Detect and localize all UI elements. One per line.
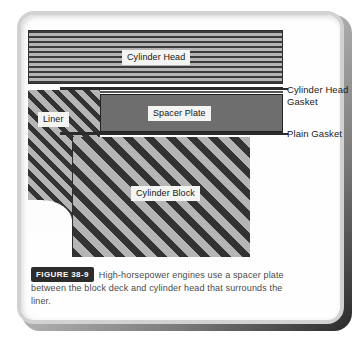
figure-caption: FIGURE 38-9High-horsepower engines use a… [31,267,299,307]
cylinder-block-label: Cylinder Block [131,186,200,201]
liner-label: Liner [38,112,69,127]
spacer-plate-label: Spacer Plate [148,106,211,121]
cylinder-head-label: Cylinder Head [122,50,190,65]
liner-torn-edge-lower [28,214,58,232]
figure-page: Cylinder Head Liner Spacer Plate Cylinde… [0,0,363,344]
plain-gasket-shape [60,132,283,135]
cylinder-head-gasket-callout: Cylinder Head Gasket [287,84,349,107]
plain-gasket-callout: Plain Gasket [287,128,342,140]
figure-number-badge: FIGURE 38-9 [31,267,94,282]
